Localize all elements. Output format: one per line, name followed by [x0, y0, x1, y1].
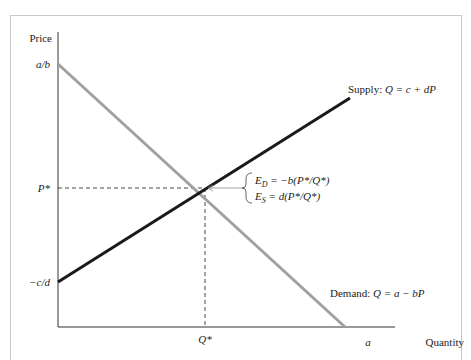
demand-label: Demand: Q = a − bP — [330, 287, 425, 299]
supply-elasticity: ES = d(P*/Q*) — [254, 190, 321, 205]
x-axis-label: Quantity — [426, 336, 465, 348]
tick-qstar: Q* — [198, 333, 212, 345]
tick-a: a — [365, 336, 371, 348]
tick-a-over-b: a/b — [36, 58, 51, 70]
brace-icon — [242, 173, 252, 203]
supply-label: Supply: Q = c + dP — [348, 83, 436, 95]
tick-neg-c-over-d: −c/d — [29, 276, 50, 288]
y-axis-label: Price — [29, 32, 52, 44]
demand-elasticity: ED = −b(P*/Q*) — [254, 174, 330, 189]
tick-pstar: P* — [37, 182, 51, 194]
